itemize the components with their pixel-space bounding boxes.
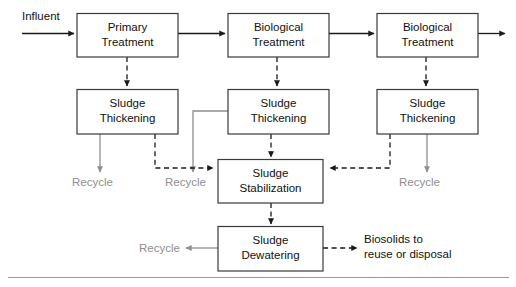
- box-sludge-dewatering-line1: Sludge: [253, 234, 289, 246]
- box-biological-treatment-2[interactable]: Biological Treatment: [377, 14, 478, 58]
- flowchart-svg: Influent Recycle Recycle: [0, 0, 516, 287]
- flowchart-diagram: Influent Recycle Recycle: [0, 0, 516, 287]
- box-sludge-thickening-3[interactable]: Sludge Thickening: [377, 90, 478, 135]
- box-sludge-thickening-3-line2: Thickening: [400, 112, 456, 124]
- recycle-label-4: Recycle: [139, 242, 180, 254]
- box-biological-treatment-1[interactable]: Biological Treatment: [228, 14, 329, 58]
- box-sludge-thickening-2-line1: Sludge: [261, 97, 297, 109]
- box-biological-treatment-1-line1: Biological: [254, 21, 303, 33]
- box-sludge-dewatering-line2: Dewatering: [241, 249, 299, 261]
- box-sludge-stabilization-line2: Stabilization: [239, 182, 301, 194]
- recycle-label-1: Recycle: [72, 176, 113, 188]
- box-sludge-stabilization[interactable]: Sludge Stabilization: [218, 160, 323, 204]
- recycle-label-2: Recycle: [165, 176, 206, 188]
- box-primary-treatment[interactable]: Primary Treatment: [77, 14, 178, 58]
- box-sludge-thickening-1-line1: Sludge: [110, 97, 146, 109]
- biosolids-label-line1: Biosolids to: [364, 233, 423, 245]
- box-sludge-thickening-2[interactable]: Sludge Thickening: [228, 90, 329, 135]
- recycle-label-3: Recycle: [399, 176, 440, 188]
- box-biological-treatment-1-line2: Treatment: [253, 36, 306, 48]
- box-sludge-thickening-1-line2: Thickening: [100, 112, 156, 124]
- box-sludge-thickening-1[interactable]: Sludge Thickening: [77, 90, 178, 135]
- influent-label: Influent: [22, 10, 61, 22]
- biosolids-label-line2: reuse or disposal: [364, 248, 452, 260]
- thickening-3-to-stabilization-arrow: [330, 134, 390, 168]
- box-sludge-dewatering[interactable]: Sludge Dewatering: [218, 227, 323, 272]
- box-biological-treatment-2-line1: Biological: [403, 21, 452, 33]
- box-biological-treatment-2-line2: Treatment: [402, 36, 455, 48]
- box-sludge-stabilization-line1: Sludge: [253, 167, 289, 179]
- box-primary-treatment-line2: Treatment: [102, 36, 155, 48]
- box-sludge-thickening-2-line2: Thickening: [251, 112, 307, 124]
- box-sludge-thickening-3-line1: Sludge: [410, 97, 446, 109]
- thickening-1-to-stabilization-arrow: [155, 134, 213, 168]
- box-primary-treatment-line1: Primary: [108, 21, 148, 33]
